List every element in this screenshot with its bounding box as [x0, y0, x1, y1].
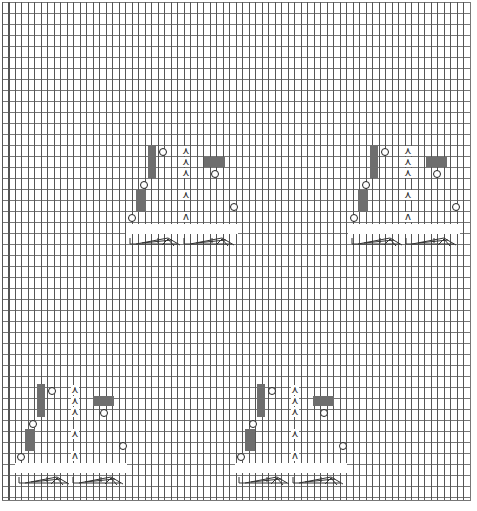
purl-block-lower	[136, 190, 146, 212]
decrease-icon: ⋏	[71, 429, 79, 439]
stitch-motif-3: ⋏ ⋏ ⋏ ⋏ ʌ	[15, 384, 127, 488]
blank-row	[15, 463, 127, 473]
purl-block-upper	[370, 145, 378, 178]
blank-row	[126, 224, 238, 234]
decrease-icon: ʌ	[71, 451, 79, 461]
yarn-over-icon	[350, 214, 358, 222]
cable-cross-icon	[350, 236, 458, 248]
cable-cross-icon	[17, 475, 125, 487]
decrease-icon: ⋏	[182, 190, 190, 200]
blank-row	[348, 224, 460, 234]
stitch-motif-1: ⋏ ⋏ ⋏ ⋏ ʌ	[126, 145, 238, 249]
yarn-over-icon	[17, 453, 25, 461]
decrease-icon: ⋏	[182, 157, 190, 167]
yarn-over-icon	[29, 420, 37, 428]
yarn-over-icon	[362, 181, 370, 189]
decrease-icon: ⋏	[291, 429, 299, 439]
decrease-icon: ⋏	[291, 396, 299, 406]
yarn-over-icon	[268, 387, 276, 395]
yarn-over-icon	[159, 148, 167, 156]
decrease-icon: ⋏	[404, 157, 412, 167]
stitch-motif-4: ⋏ ⋏ ⋏ ⋏ ʌ	[235, 384, 347, 488]
purl-block-upper	[37, 384, 45, 417]
decrease-icon: ⋏	[182, 146, 190, 156]
cable-cross-icon	[128, 236, 236, 248]
yarn-over-icon	[433, 170, 441, 178]
decrease-icon: ⋏	[291, 407, 299, 417]
yarn-over-icon	[249, 420, 257, 428]
decrease-icon: ⋏	[71, 385, 79, 395]
yarn-over-icon	[119, 442, 127, 450]
decrease-icon: ʌ	[182, 212, 190, 222]
purl-block-right	[204, 157, 225, 167]
purl-block-right	[93, 396, 114, 406]
purl-block-right	[313, 396, 334, 406]
purl-block-lower	[358, 190, 368, 212]
decrease-icon: ⋏	[182, 168, 190, 178]
yarn-over-icon	[128, 214, 136, 222]
yarn-over-icon	[452, 203, 460, 211]
yarn-over-icon	[100, 409, 108, 417]
decrease-icon: ⋏	[71, 407, 79, 417]
blank-row	[235, 463, 347, 473]
decrease-icon: ⋏	[404, 190, 412, 200]
decrease-icon: ⋏	[71, 396, 79, 406]
stitch-motif-2: ⋏ ⋏ ⋏ ⋏ ʌ	[348, 145, 460, 249]
decrease-icon: ʌ	[291, 451, 299, 461]
yarn-over-icon	[320, 409, 328, 417]
yarn-over-icon	[140, 181, 148, 189]
yarn-over-icon	[48, 387, 56, 395]
purl-block-lower	[25, 429, 35, 451]
purl-block-right	[426, 157, 447, 167]
cable-cross-icon	[237, 475, 345, 487]
purl-block-lower	[245, 429, 255, 451]
purl-block-upper	[148, 145, 156, 178]
yarn-over-icon	[211, 170, 219, 178]
yarn-over-icon	[339, 442, 347, 450]
decrease-icon: ʌ	[404, 212, 412, 222]
yarn-over-icon	[230, 203, 238, 211]
yarn-over-icon	[237, 453, 245, 461]
purl-block-upper	[257, 384, 265, 417]
yarn-over-icon	[381, 148, 389, 156]
decrease-icon: ⋏	[404, 146, 412, 156]
decrease-icon: ⋏	[404, 168, 412, 178]
decrease-icon: ⋏	[291, 385, 299, 395]
